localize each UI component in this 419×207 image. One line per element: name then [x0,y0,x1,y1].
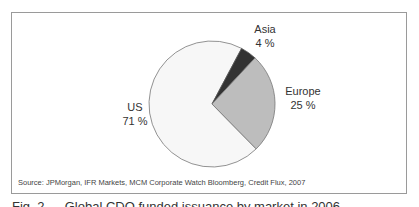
label-us-name: US [118,100,152,114]
label-asia: Asia 4 % [250,22,280,50]
label-asia-pct: 4 % [250,36,280,50]
pie-chart [0,0,419,207]
label-us-pct: 71 % [118,114,152,128]
label-europe: Europe 25 % [278,84,328,112]
label-europe-name: Europe [278,84,328,98]
label-us: US 71 % [118,100,152,128]
source-note: Source: JPMorgan, IFR Markets, MCM Corpo… [18,178,305,187]
label-asia-name: Asia [250,22,280,36]
label-europe-pct: 25 % [278,98,328,112]
figure-caption: Fig. 2 — Global CDO funded issuance by m… [12,199,340,207]
